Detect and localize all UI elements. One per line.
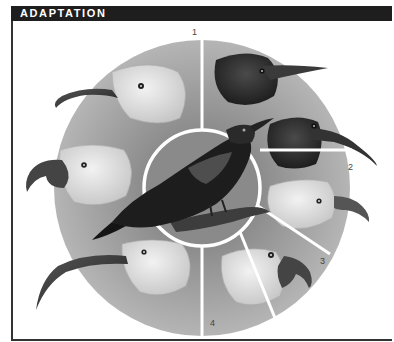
adaptation-diagram: 1 2 3 4	[0, 0, 394, 342]
segment-label-2: 2	[348, 162, 353, 172]
head-left	[26, 145, 132, 205]
segment-label-4: 4	[210, 318, 215, 328]
segment-label-3: 3	[320, 256, 325, 266]
segment-label-1: 1	[192, 27, 197, 37]
